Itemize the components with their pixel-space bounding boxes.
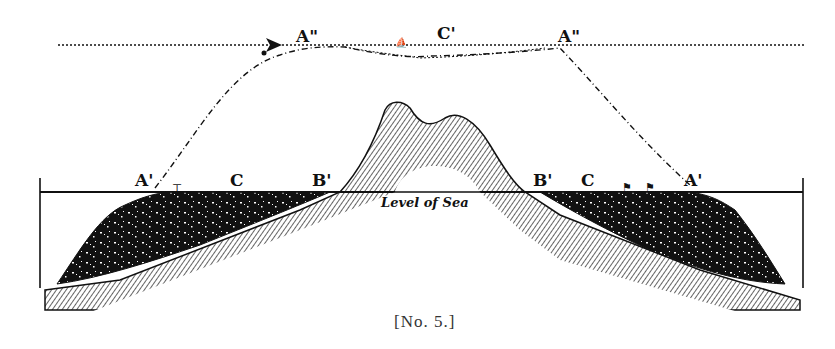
label-a-double-prime-left: A" xyxy=(296,28,318,45)
label-a-prime-right: A' xyxy=(684,172,702,189)
marker-icon: ⊤ xyxy=(172,182,182,195)
sea-level-label: Level of Sea xyxy=(381,196,469,209)
label-c-right: C xyxy=(581,172,595,189)
arrow-icon xyxy=(266,38,282,52)
label-b-prime-left: B' xyxy=(312,172,332,189)
label-b-prime-right: B' xyxy=(533,172,553,189)
label-a-double-prime-right: A" xyxy=(558,28,580,45)
figure-caption: [No. 5.] xyxy=(394,313,455,330)
label-a-prime-left: A' xyxy=(135,172,153,189)
label-c-left: C xyxy=(230,172,244,189)
marker-icon: ⚑ xyxy=(645,181,655,194)
upper-flow-line xyxy=(58,38,805,56)
boat-icon: ⛵ xyxy=(395,36,407,49)
geological-section-diagram: ⛵ ⊤ ⚑ ⚑ xyxy=(0,0,835,349)
marker-icon: ⚑ xyxy=(622,181,632,194)
label-c-prime-top: C' xyxy=(437,25,456,42)
